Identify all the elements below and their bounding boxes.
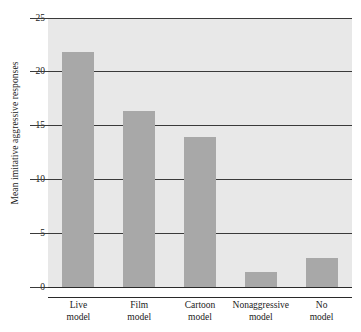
plot-area: 0510152025 (48, 18, 352, 287)
bar (62, 52, 94, 287)
y-tick-mark-20 (30, 71, 48, 72)
bar (184, 137, 216, 287)
x-axis-label-4: Nonaggressivemodel (230, 300, 291, 323)
y-tick-mark-25 (30, 18, 48, 19)
x-axis-label-line: Cartoon (170, 300, 231, 312)
x-axis-label-line: Nonaggressive (230, 300, 291, 312)
bar (245, 272, 277, 287)
x-axis-label-line: model (109, 312, 170, 324)
x-axis-label-line: Live (48, 300, 109, 312)
y-tick-mark-15 (30, 125, 48, 126)
y-tick-mark-10 (30, 179, 48, 180)
x-axis-labels: LivemodelFilmmodelCartoonmodelNonaggress… (48, 300, 352, 332)
bar (306, 258, 338, 287)
gridline-y-25 (48, 18, 352, 19)
y-axis-title: Mean imitative aggressive responses (10, 28, 20, 238)
y-tick-mark-5 (30, 233, 48, 234)
x-axis-label-5: Nomodel (291, 300, 352, 323)
x-axis-label-line: model (48, 312, 109, 324)
x-axis-label-line: model (291, 312, 352, 324)
x-axis-label-line: model (230, 312, 291, 324)
y-tick-mark-0 (30, 287, 48, 288)
x-axis-label-line: No (291, 300, 352, 312)
x-axis-line (48, 297, 352, 298)
bar-chart-figure: Mean imitative aggressive responses 0510… (0, 0, 361, 332)
x-axis-label-line: model (170, 312, 231, 324)
bar (123, 111, 155, 287)
x-axis-label-line: Film (109, 300, 170, 312)
x-axis-label-2: Filmmodel (109, 300, 170, 323)
x-axis-label-3: Cartoonmodel (170, 300, 231, 323)
x-axis-label-1: Livemodel (48, 300, 109, 323)
y-axis-title-container: Mean imitative aggressive responses (0, 0, 22, 290)
